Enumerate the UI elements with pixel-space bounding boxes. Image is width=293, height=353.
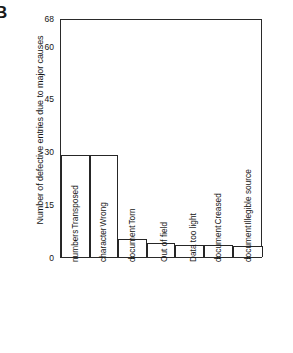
x-axis-label: Illegible sourcedocument (244, 169, 253, 262)
y-axis-tick-label: 0 (14, 254, 54, 263)
y-axis-tick-label: 45 (14, 95, 54, 104)
x-axis-label-line: Torn (128, 208, 137, 224)
x-axis-label-line: Illegible source (244, 169, 253, 224)
y-axis-tick-label: 60 (14, 43, 54, 52)
x-axis-label: Wrongcharacter (99, 202, 108, 262)
x-axis-label: Out of field (160, 222, 169, 262)
y-axis-tick-label: 30 (14, 148, 54, 157)
x-axis-label-line: character (99, 227, 108, 262)
x-axis-label: Torndocument (128, 208, 137, 262)
x-axis-label: Transposednumbers (71, 185, 80, 262)
y-axis-tick-label: 15 (14, 201, 54, 210)
x-axis-label-line: Wrong (99, 202, 108, 226)
x-axis-label-line: Transposed (71, 185, 80, 229)
y-axis-tick-label: 68 (14, 15, 54, 24)
x-axis-label-line: document (214, 226, 223, 262)
panel-letter: B (0, 4, 7, 21)
x-axis-label-line: numbers (71, 230, 80, 262)
x-axis-label-line: document (244, 226, 253, 262)
x-axis-label-line: Creased (214, 193, 223, 224)
x-axis-label-line: Data too light (189, 213, 198, 262)
x-axis-label-line: document (128, 226, 137, 262)
x-axis-label: Data too light (189, 213, 198, 262)
figure-panel-b: B Number of defective entries due to maj… (0, 0, 293, 353)
x-axis-label-line: Out of field (160, 222, 169, 262)
x-axis-label: Creaseddocument (214, 193, 223, 262)
